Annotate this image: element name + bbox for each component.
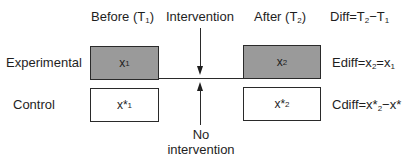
intervention-arrow-down-icon — [197, 66, 203, 75]
cdiff-lhs: Cdiff=x* — [332, 97, 378, 112]
experimental-before-box: x1 — [90, 46, 159, 80]
no-intervention-line1: No — [166, 127, 236, 142]
header-after-text: After (T — [254, 9, 297, 24]
control-before-box: x*1 — [90, 88, 159, 122]
control-diff-equation: Cdiff=x*2−x* — [332, 97, 401, 113]
no-intervention-arrow-shaft — [200, 88, 201, 125]
exp-after-sub: 2 — [283, 58, 287, 67]
header-after-close: ) — [302, 9, 306, 24]
experimental-after-box: x2 — [243, 45, 321, 79]
row-label-experimental: Experimental — [6, 55, 82, 70]
header-intervention: Intervention — [166, 9, 234, 24]
intervention-arrow-shaft — [200, 28, 201, 70]
exp-before-sub: 1 — [125, 59, 129, 68]
diff-lhs: Diff=T — [330, 9, 365, 24]
header-after: After (T2) — [254, 9, 306, 25]
ctrl-after-sub: 2 — [285, 100, 289, 109]
row-label-control: Control — [13, 97, 55, 112]
no-intervention-line2: intervention — [166, 142, 236, 157]
ediff-sub2: 1 — [390, 62, 394, 71]
divider-line — [158, 78, 244, 79]
header-diff-formula: Diff=T2−T1 — [330, 9, 389, 25]
cdiff-mid: −x* — [382, 97, 401, 112]
no-intervention-label: No intervention — [166, 127, 236, 157]
diff-sub2: 1 — [385, 16, 389, 25]
experimental-diff-equation: Ediff=x2=x1 — [332, 55, 395, 71]
header-before: Before (T1) — [91, 9, 154, 25]
diff-mid: −T — [369, 9, 385, 24]
ediff-lhs: Ediff=x — [332, 55, 372, 70]
ctrl-before-var: x* — [117, 98, 128, 112]
ediff-mid: =x — [376, 55, 390, 70]
ctrl-after-var: x* — [274, 97, 285, 111]
ctrl-before-sub: 1 — [128, 101, 132, 110]
control-after-box: x*2 — [243, 87, 321, 121]
header-before-close: ) — [150, 9, 154, 24]
header-before-text: Before (T — [91, 9, 145, 24]
